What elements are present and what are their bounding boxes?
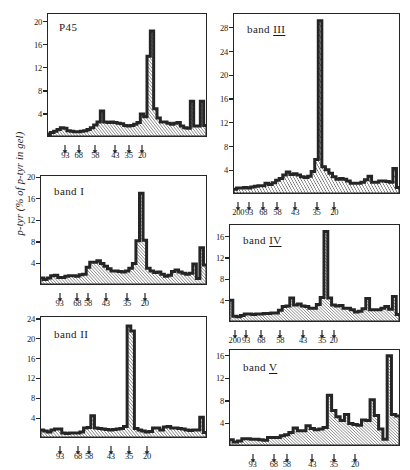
x-tick-arrow-20 <box>139 140 146 149</box>
y-tick-mark <box>229 170 233 171</box>
y-tick-mark <box>36 241 40 242</box>
x-tick-arrow-20 <box>352 449 359 458</box>
x-tick-label-93: 93 <box>245 207 253 217</box>
y-tick-band-ii-8: 8 <box>31 393 40 403</box>
y-tick-mark <box>225 400 229 401</box>
y-tick-band-i-12: 12 <box>27 215 40 225</box>
y-tick-band-iii-28: 28 <box>220 23 233 33</box>
y-tick-mark <box>36 263 40 264</box>
x-tick-label-200: 200 <box>232 207 244 217</box>
x-tick-label-43: 43 <box>111 150 119 160</box>
y-tick-mark <box>225 423 229 424</box>
y-tick-band-i-16: 16 <box>27 194 40 204</box>
y-tick-label: 16 <box>216 351 225 361</box>
y-tick-mark <box>36 198 40 199</box>
y-tick-mark <box>36 220 40 221</box>
x-tick-arrow-35 <box>125 441 132 450</box>
y-tick-label: 16 <box>216 232 225 242</box>
x-tick-arrow-93 <box>56 441 63 450</box>
x-tick-arrow-93 <box>62 140 69 149</box>
y-tick-mark <box>36 358 40 359</box>
x-tick-label-20: 20 <box>351 459 359 469</box>
y-tick-band-iii-20: 20 <box>220 70 233 80</box>
x-tick-label-68: 68 <box>257 335 265 345</box>
x-tick-arrow-200 <box>231 325 238 334</box>
y-tick-band-v-16: 16 <box>216 351 229 361</box>
y-tick-band-v-8: 8 <box>220 396 229 406</box>
x-tick-label-58: 58 <box>84 298 92 308</box>
y-tick-label: 16 <box>27 194 36 204</box>
y-tick-band-v-4: 4 <box>220 418 229 428</box>
y-tick-label: 20 <box>220 70 229 80</box>
y-tick-label: 16 <box>34 40 43 50</box>
y-tick-band-iv-8: 8 <box>220 274 229 284</box>
panel-title-band-i: band I <box>54 185 84 197</box>
y-axis-label: p-tyr (% of p-tyr in gel) <box>14 69 25 299</box>
y-tick-band-v-12: 12 <box>216 373 229 383</box>
x-tick-arrow-35 <box>313 197 320 206</box>
x-tick-arrow-43 <box>112 140 119 149</box>
x-tick-arrow-200 <box>235 197 242 206</box>
y-tick-band-iii-4: 4 <box>224 165 233 175</box>
y-tick-mark <box>36 318 40 319</box>
x-tick-label-58: 58 <box>85 451 93 461</box>
y-tick-band-iv-16: 16 <box>216 232 229 242</box>
y-tick-mark <box>36 398 40 399</box>
chart-panel-band-ii: band II4812162024936858433520 <box>40 316 207 438</box>
y-tick-p45-20: 20 <box>34 17 47 27</box>
y-tick-label: 12 <box>216 373 225 383</box>
x-tick-label-43: 43 <box>308 459 316 469</box>
y-tick-label: 24 <box>220 47 229 57</box>
y-tick-band-iii-12: 12 <box>220 118 233 128</box>
x-tick-label-200: 200 <box>229 335 241 345</box>
y-tick-mark <box>43 21 47 22</box>
y-tick-mark <box>225 300 229 301</box>
y-tick-label: 16 <box>27 354 36 364</box>
y-tick-band-ii-20: 20 <box>27 334 40 344</box>
x-tick-label-68: 68 <box>270 459 278 469</box>
y-tick-band-iii-8: 8 <box>224 142 233 152</box>
y-tick-label: 20 <box>27 334 36 344</box>
x-tick-label-68: 68 <box>73 298 81 308</box>
y-tick-mark <box>43 90 47 91</box>
y-tick-label: 28 <box>220 23 229 33</box>
x-tick-arrow-93 <box>245 197 252 206</box>
x-tick-label-43: 43 <box>102 298 110 308</box>
y-tick-mark <box>229 146 233 147</box>
plot-area-band-iii <box>233 13 400 194</box>
x-tick-arrow-35 <box>124 288 131 297</box>
y-tick-label: 16 <box>220 94 229 104</box>
x-tick-arrow-43 <box>102 288 109 297</box>
x-tick-label-35: 35 <box>125 451 133 461</box>
y-tick-mark <box>229 51 233 52</box>
x-tick-arrow-43 <box>292 197 299 206</box>
y-tick-mark <box>36 338 40 339</box>
x-tick-arrow-58 <box>86 441 93 450</box>
y-tick-mark <box>225 279 229 280</box>
x-tick-label-20: 20 <box>143 451 151 461</box>
y-tick-label: 20 <box>27 172 36 182</box>
x-tick-label-93: 93 <box>248 459 256 469</box>
y-tick-label: 12 <box>27 373 36 383</box>
x-tick-label-43: 43 <box>299 335 307 345</box>
x-tick-arrow-35 <box>319 325 326 334</box>
x-tick-arrow-68 <box>258 325 265 334</box>
x-tick-arrow-68 <box>75 140 82 149</box>
x-tick-arrow-68 <box>270 449 277 458</box>
x-tick-label-93: 93 <box>242 335 250 345</box>
x-tick-label-93: 93 <box>56 451 64 461</box>
x-tick-label-35: 35 <box>312 207 320 217</box>
x-tick-label-68: 68 <box>74 451 82 461</box>
x-tick-label-35: 35 <box>123 298 131 308</box>
y-tick-p45-16: 16 <box>34 40 47 50</box>
x-tick-label-58: 58 <box>91 150 99 160</box>
x-tick-label-35: 35 <box>318 335 326 345</box>
y-tick-label: 24 <box>27 314 36 324</box>
y-tick-label: 12 <box>216 253 225 263</box>
y-tick-mark <box>229 27 233 28</box>
y-tick-mark <box>229 98 233 99</box>
x-tick-arrow-43 <box>309 449 316 458</box>
panel-title-band-iv: band IV <box>243 234 282 246</box>
x-tick-arrow-20 <box>331 197 338 206</box>
figure-panel-grid: p-tyr (% of p-tyr in gel) P4548121620936… <box>0 0 410 470</box>
